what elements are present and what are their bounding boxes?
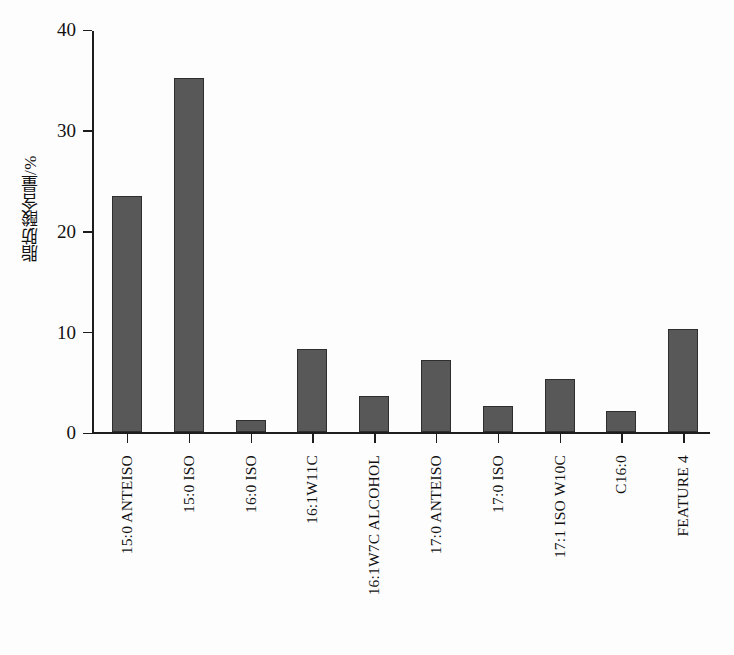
x-axis-tick: [312, 434, 314, 443]
x-axis-tick-label: 17:0 ANTEISO: [427, 455, 445, 554]
bar: [112, 196, 142, 433]
plot-area: 010203040: [92, 31, 710, 434]
x-axis-tick: [436, 434, 438, 443]
x-axis-tick-label: 17:0 ISO: [489, 455, 507, 513]
bar: [668, 329, 698, 433]
y-axis-tick: 40: [83, 30, 92, 32]
x-axis-line: [92, 432, 710, 434]
x-axis-tick-label: 15:0 ISO: [180, 455, 198, 513]
x-axis-tick: [251, 434, 253, 443]
y-axis-tick-label: 0: [67, 422, 77, 444]
y-axis-tick: 30: [83, 130, 92, 132]
y-axis-tick-label: 40: [57, 19, 76, 41]
x-axis-tick-label: 16:1W7C ALCOHOL: [365, 455, 383, 595]
x-axis-tick-label: 17:1 ISO W10C: [551, 455, 569, 558]
y-axis-tick: 20: [83, 231, 92, 233]
y-axis-tick-label: 10: [57, 321, 76, 343]
x-axis-tick: [189, 434, 191, 443]
x-axis-tick-label: 16:1W11C: [303, 455, 321, 524]
bar-chart: 脂肪酸含量/% 010203040 15:0 ANTEISO15:0 ISO16…: [0, 0, 734, 655]
bar: [359, 396, 389, 432]
x-axis-tick-label: C16:0: [612, 455, 630, 494]
y-axis-tick-label: 20: [57, 220, 76, 242]
x-axis-tick: [621, 434, 623, 443]
x-axis-tick: [498, 434, 500, 443]
y-axis-title: 脂肪酸含量/%: [22, 155, 52, 262]
x-axis-tick-label: 16:0 ISO: [242, 455, 260, 513]
bar: [606, 411, 636, 432]
x-axis-tick-label: 15:0 ANTEISO: [118, 455, 136, 554]
bar: [421, 360, 451, 433]
bar: [297, 349, 327, 433]
bar: [545, 379, 575, 432]
bar: [483, 406, 513, 432]
y-axis-tick: 10: [83, 332, 92, 334]
x-axis-tick: [127, 434, 129, 443]
y-axis-line: [92, 31, 94, 434]
bar: [174, 78, 204, 433]
x-axis-tick: [683, 434, 685, 443]
y-axis-tick: 0: [83, 433, 92, 435]
x-axis-tick-label: FEATURE 4: [674, 455, 692, 536]
bar: [236, 420, 266, 432]
y-axis-tick-label: 30: [57, 120, 76, 142]
x-axis-tick: [374, 434, 376, 443]
x-axis-tick: [560, 434, 562, 443]
